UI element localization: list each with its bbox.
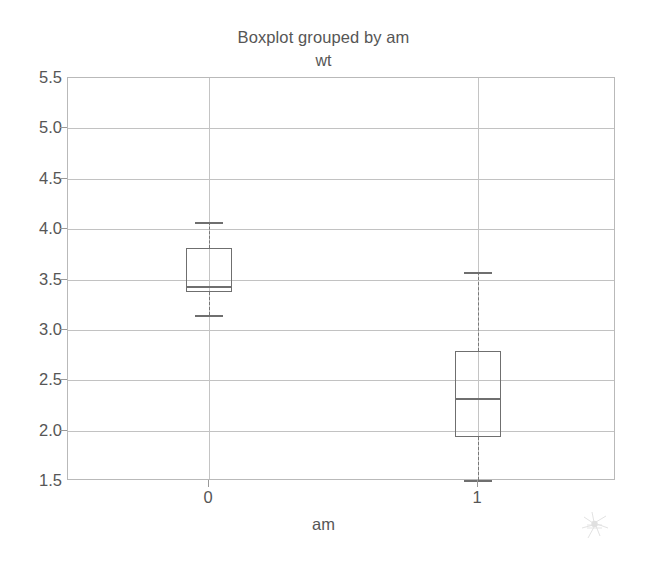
median-line xyxy=(186,286,232,288)
y-tick-mark xyxy=(60,228,67,229)
gridline-horizontal xyxy=(68,179,614,180)
y-tick-label: 5.0 xyxy=(4,118,62,137)
gridline-horizontal xyxy=(68,330,614,331)
plot-area xyxy=(67,77,615,480)
gridline-horizontal xyxy=(68,380,614,381)
y-tick-mark xyxy=(60,178,67,179)
x-tick-mark xyxy=(208,480,209,487)
y-tick-label: 3.0 xyxy=(4,319,62,338)
y-tick-label: 3.5 xyxy=(4,269,62,288)
y-tick-mark xyxy=(60,379,67,380)
cap-upper xyxy=(195,222,223,224)
y-axis: 5.55.04.54.03.53.02.52.01.5 xyxy=(0,0,62,568)
y-tick-mark xyxy=(60,127,67,128)
x-axis-title: am xyxy=(0,515,647,534)
y-tick-label: 2.5 xyxy=(4,370,62,389)
gridline-horizontal xyxy=(68,128,614,129)
y-tick-mark xyxy=(60,279,67,280)
boxplot-figure: Boxplot grouped by am wt 5.55.04.54.03.5… xyxy=(0,0,647,568)
box-iqr xyxy=(455,351,501,437)
gridline-horizontal xyxy=(68,229,614,230)
y-tick-label: 4.5 xyxy=(4,168,62,187)
whisker-lower xyxy=(478,437,479,480)
whisker-upper xyxy=(478,272,479,351)
x-tick-label: 1 xyxy=(472,488,481,507)
y-tick-mark xyxy=(60,430,67,431)
whisker-upper xyxy=(209,222,210,248)
cap-upper xyxy=(464,272,492,274)
x-tick-mark xyxy=(477,480,478,487)
whisker-lower xyxy=(209,292,210,315)
y-tick-label: 4.0 xyxy=(4,219,62,238)
y-tick-label: 5.5 xyxy=(4,68,62,87)
y-tick-label: 2.0 xyxy=(4,420,62,439)
chart-title: Boxplot grouped by am xyxy=(0,28,647,47)
median-line xyxy=(455,398,501,400)
gridline-horizontal xyxy=(68,280,614,281)
x-tick-label: 0 xyxy=(203,488,212,507)
y-tick-mark xyxy=(60,329,67,330)
gridline-horizontal xyxy=(68,431,614,432)
y-tick-label: 1.5 xyxy=(4,471,62,490)
cap-lower xyxy=(464,480,492,482)
chart-subtitle: wt xyxy=(0,52,647,70)
cap-lower xyxy=(195,315,223,317)
